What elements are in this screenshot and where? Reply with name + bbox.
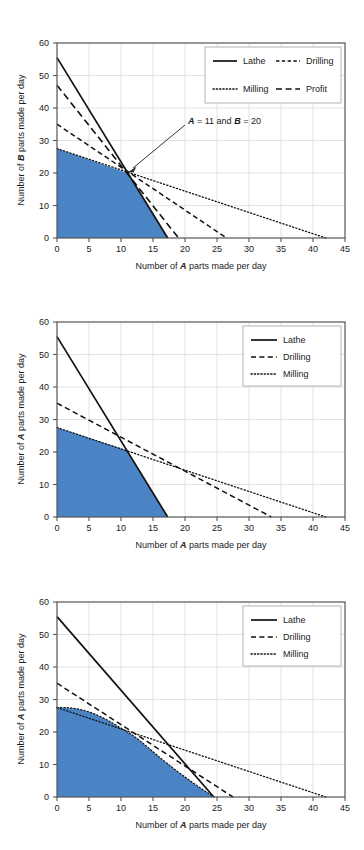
xtick-label: 40 — [308, 244, 318, 254]
xtick-label: 45 — [340, 523, 350, 533]
legend-label-drilling: Drilling — [306, 56, 334, 66]
ytick-label: 40 — [39, 103, 49, 113]
xtick-label: 35 — [276, 244, 286, 254]
ytick-label: 10 — [39, 480, 49, 490]
legend-label-drilling: Drilling — [283, 352, 311, 362]
chart-figure-2: 0 5 10 15 20 25 30 35 40 45 0 10 20 30 4… — [0, 290, 364, 570]
ytick-label: 0 — [44, 512, 49, 522]
ytick-labels-1: 0 10 20 30 40 50 60 — [39, 38, 49, 243]
xtick-label: 45 — [340, 803, 350, 813]
ytick-label: 60 — [39, 597, 49, 607]
legend-label-milling: Milling — [283, 369, 309, 379]
xtick-labels-3: 0 5 10 15 20 25 30 35 40 45 — [54, 803, 350, 813]
ytick-label: 40 — [39, 662, 49, 672]
x-axis-title-1: Number of A parts made per day — [135, 261, 267, 271]
chart-figure-3: 0 5 10 15 20 25 30 35 40 45 0 10 20 30 4… — [0, 570, 364, 850]
xtick-label: 10 — [116, 523, 126, 533]
x-axis-title-2: Number of A parts made per day — [135, 540, 267, 550]
chart-1-svg: 0 5 10 15 20 25 30 35 40 45 0 10 20 30 4… — [0, 0, 364, 290]
xtick-label: 25 — [212, 244, 222, 254]
xtick-label: 5 — [86, 803, 91, 813]
ytick-label: 0 — [44, 792, 49, 802]
legend-label-lathe: Lathe — [243, 56, 266, 66]
annotation-label: A = 11 and B = 20 — [187, 116, 261, 126]
ytick-label: 10 — [39, 760, 49, 770]
xtick-label: 0 — [54, 244, 59, 254]
ytick-label: 60 — [39, 38, 49, 48]
chart-2-svg: 0 5 10 15 20 25 30 35 40 45 0 10 20 30 4… — [0, 290, 364, 570]
legend-3: Lathe Drilling Milling — [243, 606, 341, 666]
xtick-label: 35 — [276, 803, 286, 813]
x-axis-title-3: Number of A parts made per day — [135, 820, 267, 830]
ytick-label: 30 — [39, 136, 49, 146]
ytick-label: 0 — [44, 233, 49, 243]
legend-label-profit: Profit — [306, 84, 328, 94]
chart-3-svg: 0 5 10 15 20 25 30 35 40 45 0 10 20 30 4… — [0, 570, 364, 850]
xtick-labels-2: 0 5 10 15 20 25 30 35 40 45 — [54, 523, 350, 533]
y-axis-title-2: Number of A parts made per day — [16, 353, 26, 485]
xtick-label: 5 — [86, 523, 91, 533]
y-axis-title-3: Number of A parts made per day — [16, 633, 26, 765]
legend-1: Lathe Drilling Milling Profit — [205, 47, 341, 103]
xtick-label: 0 — [54, 523, 59, 533]
ytick-labels-2: 0 10 20 30 40 50 60 — [39, 317, 49, 522]
xtick-label: 25 — [212, 803, 222, 813]
xtick-label: 25 — [212, 523, 222, 533]
legend-label-lathe: Lathe — [283, 615, 306, 625]
ytick-label: 20 — [39, 447, 49, 457]
ytick-label: 50 — [39, 350, 49, 360]
xtick-label: 40 — [308, 523, 318, 533]
y-axis-title-1: Number of B parts made per day — [16, 74, 26, 206]
xtick-label: 0 — [54, 803, 59, 813]
ytick-label: 50 — [39, 630, 49, 640]
xtick-label: 20 — [180, 523, 190, 533]
xtick-marks-1 — [57, 238, 345, 242]
legend-label-milling: Milling — [243, 84, 269, 94]
ytick-label: 20 — [39, 168, 49, 178]
ytick-label: 30 — [39, 415, 49, 425]
ytick-label: 20 — [39, 727, 49, 737]
ytick-label: 30 — [39, 695, 49, 705]
xtick-label: 15 — [148, 523, 158, 533]
xtick-label: 20 — [180, 803, 190, 813]
xtick-label: 10 — [116, 244, 126, 254]
ytick-labels-3: 0 10 20 30 40 50 60 — [39, 597, 49, 802]
figure-page: 0 5 10 15 20 25 30 35 40 45 0 10 20 30 4… — [0, 0, 364, 850]
xtick-label: 30 — [244, 523, 254, 533]
xtick-label: 30 — [244, 244, 254, 254]
xtick-label: 20 — [180, 244, 190, 254]
xtick-label: 35 — [276, 523, 286, 533]
xtick-label: 5 — [86, 244, 91, 254]
legend-label-drilling: Drilling — [283, 632, 311, 642]
ytick-label: 50 — [39, 71, 49, 81]
xtick-label: 15 — [148, 803, 158, 813]
legend-2: Lathe Drilling Milling — [243, 326, 341, 386]
xtick-label: 15 — [148, 244, 158, 254]
xtick-labels-1: 0 5 10 15 20 25 30 35 40 45 — [54, 244, 350, 254]
legend-label-lathe: Lathe — [283, 335, 306, 345]
xtick-label: 30 — [244, 803, 254, 813]
xtick-label: 45 — [340, 244, 350, 254]
ytick-label: 10 — [39, 201, 49, 211]
ytick-label: 40 — [39, 382, 49, 392]
ytick-label: 60 — [39, 317, 49, 327]
xtick-label: 40 — [308, 803, 318, 813]
xtick-label: 10 — [116, 803, 126, 813]
legend-label-milling: Milling — [283, 649, 309, 659]
chart-figure-1: 0 5 10 15 20 25 30 35 40 45 0 10 20 30 4… — [0, 0, 364, 290]
